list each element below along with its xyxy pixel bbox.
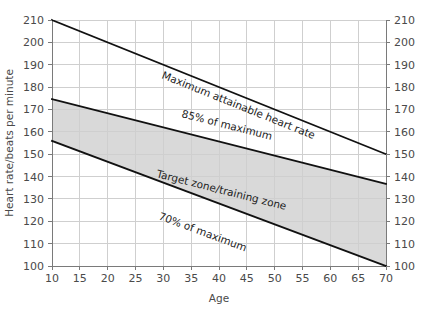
- y-tick-label-right: 180: [394, 81, 415, 94]
- x-tick-label: 30: [156, 272, 170, 285]
- x-tick-label: 55: [296, 272, 310, 285]
- y-tick-label-right: 190: [394, 59, 415, 72]
- x-axis-title: Age: [209, 292, 229, 304]
- y-tick-label-right: 160: [394, 126, 415, 139]
- x-tick-label: 35: [184, 272, 198, 285]
- y-tick-label: 170: [23, 103, 44, 116]
- heart-rate-target-zone-chart: 210 200 190 180 170 160 150 140 130 120 …: [0, 0, 422, 313]
- x-tick-label: 45: [240, 272, 254, 285]
- y-tick-label-right: 120: [394, 215, 415, 228]
- x-tick-label: 70: [379, 272, 393, 285]
- y-tick-label: 160: [23, 126, 44, 139]
- y-tick-label: 190: [23, 59, 44, 72]
- y-tick-label-right: 110: [394, 238, 415, 251]
- y-tick-label-right: 210: [394, 14, 415, 27]
- x-tick-label: 60: [323, 272, 337, 285]
- y-tick-label-right: 170: [394, 103, 415, 116]
- y-tick-label: 100: [23, 260, 44, 273]
- y-tick-label: 120: [23, 215, 44, 228]
- y-tick-label: 140: [23, 171, 44, 184]
- x-tick-label: 15: [73, 272, 87, 285]
- x-tick-label: 40: [212, 272, 226, 285]
- y-tick-label-right: 130: [394, 193, 415, 206]
- y-tick-label-right: 140: [394, 171, 415, 184]
- y-tick-label-right: 100: [394, 260, 415, 273]
- y-tick-label-right: 200: [394, 36, 415, 49]
- y-tick-label-right: 150: [394, 148, 415, 161]
- y-tick-label: 110: [23, 238, 44, 251]
- x-tick-label: 20: [101, 272, 115, 285]
- x-tick-label: 25: [129, 272, 143, 285]
- y-tick-label: 210: [23, 14, 44, 27]
- x-tick-label: 50: [268, 272, 282, 285]
- y-tick-label: 130: [23, 193, 44, 206]
- y-tick-label: 180: [23, 81, 44, 94]
- y-tick-label: 200: [23, 36, 44, 49]
- x-tick-label: 65: [351, 272, 365, 285]
- y-tick-label: 150: [23, 148, 44, 161]
- y-axis-title: Heart rate/beats per minute: [3, 69, 15, 217]
- chart-svg: 210 200 190 180 170 160 150 140 130 120 …: [0, 0, 422, 313]
- x-tick-label: 10: [45, 272, 59, 285]
